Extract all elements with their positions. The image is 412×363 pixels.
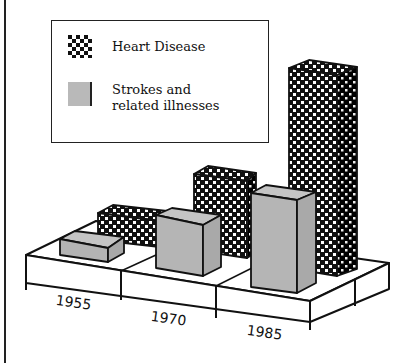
bar-stroke-1985 (251, 185, 316, 293)
checkerboard-swatch-icon (68, 35, 92, 58)
legend-label: Heart Disease (112, 39, 242, 55)
gray-swatch-icon (68, 82, 92, 106)
legend-label: Strokes and related illnesses (112, 82, 242, 114)
chart-legend: Heart Disease Strokes and related illnes… (51, 20, 269, 143)
bar-stroke-1970 (156, 208, 221, 276)
legend-item-heart-disease: Heart Disease (68, 35, 242, 58)
legend-item-strokes: Strokes and related illnesses (68, 82, 242, 114)
